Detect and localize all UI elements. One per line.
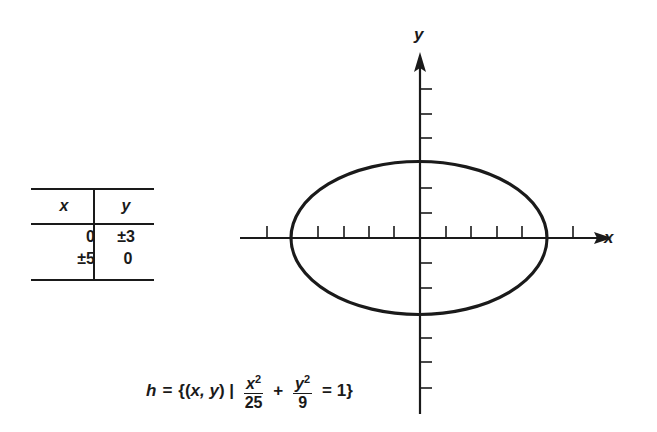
formula-set-mid: ) | [219, 381, 234, 401]
fraction-x-numerator: x [246, 375, 255, 392]
fraction-y-numerator: y [295, 375, 304, 392]
fraction-x-exponent: 2 [255, 373, 261, 385]
fraction-y-denominator: 9 [298, 394, 307, 412]
ellipse-diagram: x y 0 ±3 ±5 0 [0, 0, 657, 432]
formula-vars: x, y [191, 381, 219, 401]
formula-equals: = [162, 381, 172, 401]
formula-plus: + [273, 381, 283, 401]
x-axis-label: x [604, 228, 613, 248]
fraction-y: y2 9 [293, 370, 312, 413]
formula-lhs: h [146, 381, 156, 401]
y-axis-label: y [414, 25, 423, 45]
fraction-x: x2 25 [244, 370, 263, 413]
ellipse-formula: h = {( x, y ) | x2 25 + y2 9 = 1} [146, 366, 353, 416]
formula-set-open: {( [178, 381, 190, 401]
formula-rhs: = 1} [322, 381, 353, 401]
fraction-x-denominator: 25 [245, 394, 263, 412]
fraction-y-exponent: 2 [304, 373, 310, 385]
